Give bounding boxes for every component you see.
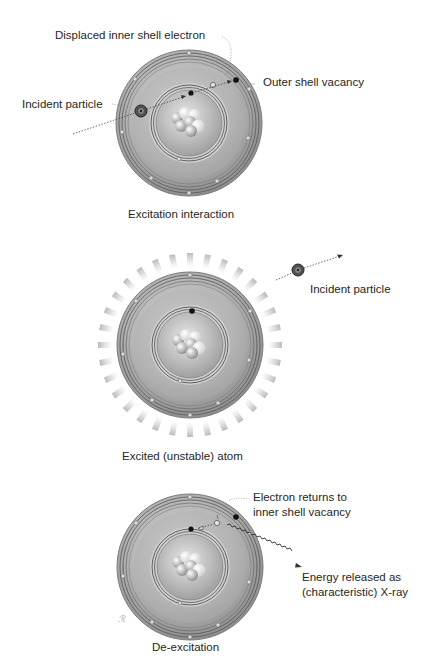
caption-excitation-interaction: Excitation interaction: [128, 207, 234, 222]
label-energy-released-line1: Energy released as: [302, 570, 401, 585]
ejected-electron: [233, 77, 239, 83]
atom-excitation: [73, 37, 262, 196]
caption-excited-atom: Excited (unstable) atom: [122, 449, 243, 464]
label-electron-returns-line2: inner shell vacancy: [253, 505, 351, 520]
label-electron-returns-line1: Electron returns to: [253, 490, 347, 505]
label-incident-particle-2: Incident particle: [310, 282, 391, 297]
label-incident-particle-1: Incident particle: [22, 97, 103, 112]
displaced-electron: [188, 90, 193, 95]
inner-electron: [189, 308, 195, 314]
label-displaced-inner-shell-electron: Displaced inner shell electron: [55, 28, 205, 43]
caption-de-excitation: De-excitation: [152, 640, 219, 655]
artist-signature: ℛ: [118, 614, 126, 624]
label-energy-released-line2: (characteristic) X-ray: [302, 585, 408, 600]
atom-excited: [98, 253, 343, 437]
label-outer-shell-vacancy: Outer shell vacancy: [263, 75, 364, 90]
